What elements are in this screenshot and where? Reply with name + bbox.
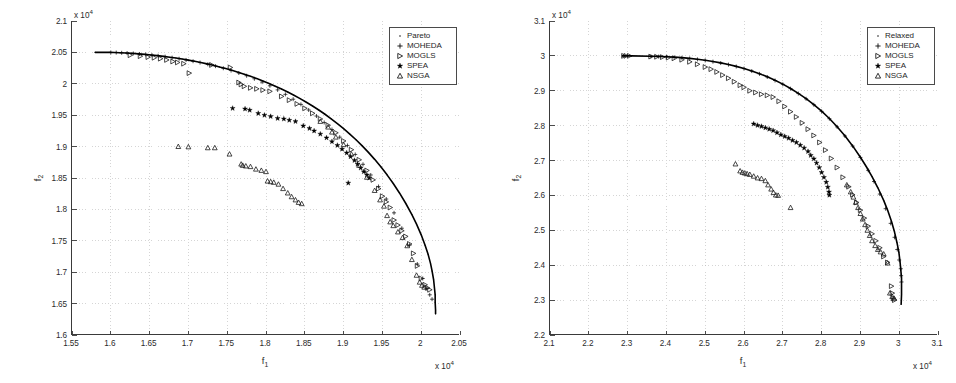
x-tick-label: 2.9: [854, 339, 865, 348]
x-axis-title: f1: [262, 355, 268, 368]
series-relaxed: [622, 55, 902, 304]
right-triangle-marker-icon: [393, 51, 407, 61]
legend-item-mogls[interactable]: MOGLS: [871, 51, 930, 61]
star-marker-icon: [393, 61, 407, 71]
legend-item-label: Relaxed: [885, 31, 914, 41]
triangle-marker-icon: [393, 71, 407, 81]
x-tick-label: 1.7: [182, 339, 193, 348]
star-marker-icon: [871, 61, 885, 71]
legend-item-moheda[interactable]: MOHEDA: [393, 41, 452, 51]
x-tick-label: 1.6: [104, 339, 115, 348]
triangle-marker-icon: [871, 71, 885, 81]
y-tick-label: 2.3: [519, 296, 545, 305]
series-spea: [751, 121, 832, 197]
x-tick-label: 2.6: [737, 339, 748, 348]
x-tick-label: 1.55: [63, 339, 79, 348]
x-tick-label: 2.3: [621, 339, 632, 348]
chart-legend[interactable]: RelaxedMOHEDAMOGLSSPEANSGA: [867, 27, 935, 85]
y-tick-label: 3: [519, 51, 545, 60]
legend-item-label: SPEA: [407, 61, 428, 71]
series-moheda: [649, 54, 904, 284]
legend-item-label: MOGLS: [407, 51, 436, 61]
y-tick-label: 2.6: [519, 191, 545, 200]
x-tick-label: 2.2: [582, 339, 593, 348]
y-axis-exponent-label: x 104: [74, 8, 93, 20]
figure-container: 1.61.651.71.751.81.851.91.9522.052.11.55…: [0, 0, 956, 383]
y-tick-label: 1.75: [41, 236, 67, 245]
chart-panel-left: 1.61.651.71.751.81.851.91.9522.052.11.55…: [0, 0, 478, 383]
legend-item-mogls[interactable]: MOGLS: [393, 51, 452, 61]
x-tick-label: 1.85: [296, 339, 312, 348]
y-axis-title: f2: [510, 175, 523, 181]
y-tick-label: 1.9: [41, 142, 67, 151]
y-tick-label: 2: [41, 79, 67, 88]
y-tick-label: 2.1: [41, 17, 67, 26]
x-tick-label: 2.7: [776, 339, 787, 348]
legend-item-spea[interactable]: SPEA: [871, 61, 930, 71]
x-tick-label: 2.1: [543, 339, 554, 348]
legend-item-label: MOGLS: [885, 51, 914, 61]
x-axis-title: f1: [740, 355, 746, 368]
x-tick-label: 1.75: [218, 339, 234, 348]
x-tick-label: 1.8: [259, 339, 270, 348]
legend-item-moheda[interactable]: MOHEDA: [871, 41, 930, 51]
plus-marker-icon: [393, 41, 407, 51]
x-tick-label: 2.5: [699, 339, 710, 348]
legend-item-nsga[interactable]: NSGA: [393, 71, 452, 81]
y-tick-label: 1.85: [41, 174, 67, 183]
dot-marker-icon: [871, 31, 885, 41]
chart-legend[interactable]: ParetoMOHEDAMOGLSSPEANSGA: [389, 27, 457, 85]
legend-item-relaxed[interactable]: Relaxed: [871, 31, 930, 41]
x-tick-label: 3: [896, 339, 900, 348]
y-tick-label: 1.65: [41, 299, 67, 308]
legend-item-pareto[interactable]: Pareto: [393, 31, 452, 41]
y-axis-title: f2: [32, 175, 45, 181]
chart-panel-right: 2.22.32.42.52.62.72.82.933.12.12.22.32.4…: [478, 0, 956, 383]
y-tick-label: 1.95: [41, 111, 67, 120]
y-tick-label: 3.1: [519, 17, 545, 26]
y-tick-label: 2.4: [519, 261, 545, 270]
x-tick-label: 1.65: [141, 339, 157, 348]
series-nsga: [733, 162, 897, 301]
plus-marker-icon: [871, 41, 885, 51]
y-tick-label: 1.8: [41, 205, 67, 214]
legend-item-label: MOHEDA: [885, 41, 920, 51]
legend-item-label: Pareto: [407, 31, 430, 41]
y-tick-label: 2.9: [519, 86, 545, 95]
y-tick-label: 2.05: [41, 48, 67, 57]
legend-item-label: NSGA: [407, 71, 429, 81]
legend-item-nsga[interactable]: NSGA: [871, 71, 930, 81]
legend-item-label: SPEA: [885, 61, 906, 71]
legend-item-label: NSGA: [885, 71, 907, 81]
series-spea: [230, 106, 372, 186]
legend-item-spea[interactable]: SPEA: [393, 61, 452, 71]
x-tick-label: 2: [418, 339, 422, 348]
x-tick-label: 1.95: [374, 339, 390, 348]
x-tick-label: 3.1: [931, 339, 942, 348]
x-axis-exponent-label: x 104: [913, 359, 932, 371]
x-tick-label: 2.8: [815, 339, 826, 348]
legend-item-label: MOHEDA: [407, 41, 442, 51]
y-tick-label: 2.5: [519, 226, 545, 235]
right-triangle-marker-icon: [871, 51, 885, 61]
series-nsga: [176, 119, 427, 289]
y-tick-label: 2.8: [519, 121, 545, 130]
y-axis-exponent-label: x 104: [552, 8, 571, 20]
series-moheda: [109, 50, 434, 301]
y-tick-label: 2.2: [519, 331, 545, 340]
x-tick-label: 2.4: [660, 339, 671, 348]
y-tick-label: 2.7: [519, 156, 545, 165]
x-axis-exponent-label: x 104: [435, 359, 454, 371]
y-tick-label: 1.7: [41, 268, 67, 277]
dot-marker-icon: [393, 31, 407, 41]
x-tick-label: 2.05: [451, 339, 467, 348]
x-tick-label: 1.9: [337, 339, 348, 348]
